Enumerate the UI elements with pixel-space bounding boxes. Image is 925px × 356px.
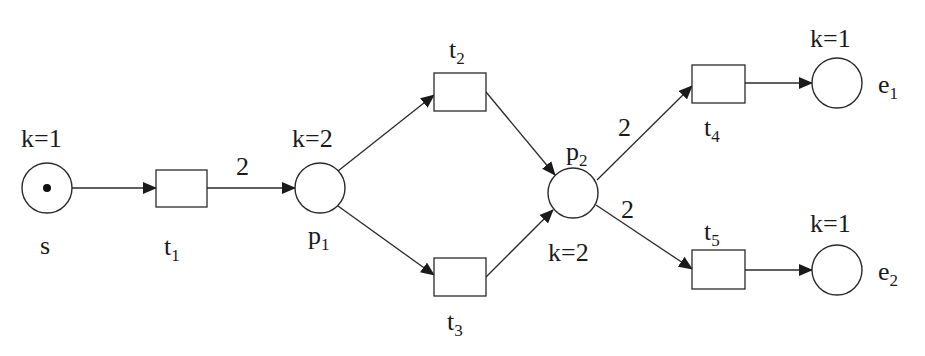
- place-s: [22, 163, 72, 213]
- transition-t4: [692, 65, 745, 103]
- place-label-s: s: [40, 231, 50, 260]
- place-e2: [812, 245, 862, 295]
- arc-t3-p2: [486, 210, 553, 277]
- capacity-label-e1: k=1: [810, 24, 851, 53]
- transition-label-t3: t3: [447, 307, 463, 340]
- place-label-p2: p2: [566, 137, 588, 170]
- arc-p2-t4: [597, 86, 692, 180]
- place-label-e2: e2: [878, 257, 898, 290]
- arc-p2-t5: [596, 205, 692, 269]
- place-label-e1: e1: [878, 70, 898, 103]
- place-p2: [548, 168, 598, 218]
- petri-net-svg: 222sk=1p1k=2p2k=2e1k=1e2k=1t1t2t3t4t5: [0, 0, 925, 356]
- transition-t5: [692, 250, 745, 289]
- capacity-label-e2: k=1: [810, 209, 851, 238]
- arc-t2-p2: [486, 92, 555, 175]
- transition-label-t5: t5: [704, 217, 720, 250]
- arc-p1-t2: [338, 95, 434, 171]
- token-dot-icon: [43, 184, 51, 192]
- transition-label-t1: t1: [164, 232, 180, 265]
- transition-label-t2: t2: [449, 35, 465, 68]
- place-circle: [812, 58, 862, 108]
- arc-weight-p2-t5: 2: [621, 195, 634, 224]
- transition-t2: [434, 73, 486, 111]
- capacity-label-p1: k=2: [292, 124, 333, 153]
- place-p1: [295, 163, 345, 213]
- place-e1: [812, 58, 862, 108]
- arc-weight-t1-p1: 2: [236, 152, 249, 181]
- capacity-label-p2: k=2: [548, 238, 589, 267]
- transition-t3: [434, 258, 486, 296]
- transition-label-t4: t4: [704, 113, 720, 146]
- place-label-p1: p1: [308, 221, 330, 254]
- arc-weight-p2-t4: 2: [618, 113, 631, 142]
- petri-net-diagram: 222sk=1p1k=2p2k=2e1k=1e2k=1t1t2t3t4t5: [0, 0, 925, 356]
- place-circle: [548, 168, 598, 218]
- arc-p1-t3: [338, 206, 434, 275]
- transition-t1: [156, 170, 207, 207]
- capacity-label-s: k=1: [21, 124, 62, 153]
- place-circle: [295, 163, 345, 213]
- place-circle: [812, 245, 862, 295]
